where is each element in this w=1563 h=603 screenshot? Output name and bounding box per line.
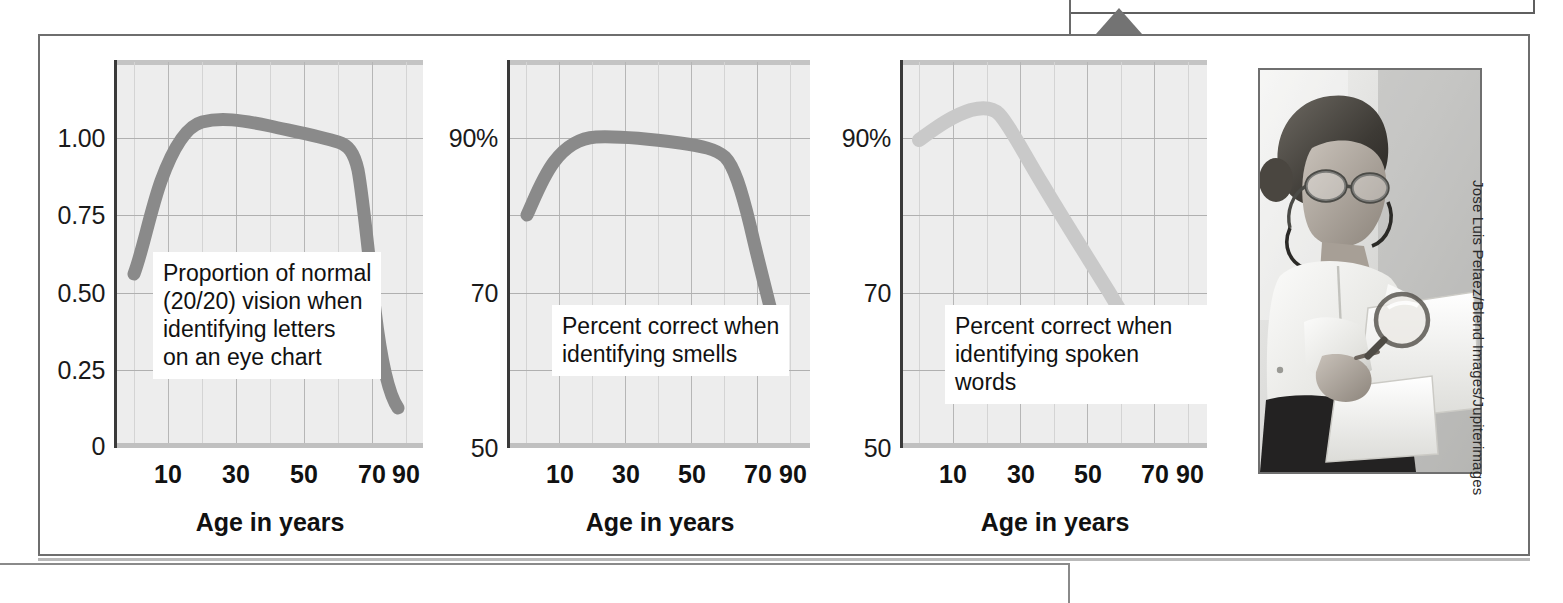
upper-box-left-rule [1069, 0, 1071, 36]
ytick-hearing-70: 70 [793, 279, 891, 308]
lower-frame-fragment [0, 563, 1070, 603]
callout-hearing: Percent correct when identifying spoken … [945, 305, 1207, 404]
callout-smell: Percent correct when identifying smells [552, 305, 789, 376]
xaxis-title-hearing: Age in years [903, 508, 1207, 537]
ytick-hearing-90: 90% [793, 124, 891, 153]
plot-area-smell: Percent correct when identifying smells [510, 60, 810, 448]
photo-older-woman-reading [1258, 68, 1482, 474]
plot-area-vision: Proportion of normal (20/20) vision when… [117, 60, 423, 448]
photo-credit: Jose Luis Pelaez/Blend Images/Jupiterima… [1470, 180, 1487, 495]
photo-illustration [1260, 70, 1480, 472]
pointer-triangle-icon [1096, 8, 1142, 34]
xtick-smell-50: 50 [662, 460, 722, 489]
xtick-vision-10: 10 [138, 460, 198, 489]
chart-smell: Percent correct when identifying smells … [510, 60, 810, 522]
ytick-vision-050: 0.50 [11, 279, 105, 308]
ytick-vision-075: 0.75 [11, 201, 105, 230]
figure-frame-shadow [38, 558, 1530, 561]
ytick-smell-70: 70 [400, 279, 498, 308]
xtick-smell-90: 90 [763, 460, 823, 489]
xtick-hearing-10: 10 [923, 460, 983, 489]
xtick-hearing-30: 30 [991, 460, 1051, 489]
plot-area-hearing: Percent correct when identifying spoken … [903, 60, 1207, 448]
xaxis-title-smell: Age in years [510, 508, 810, 537]
ytick-vision-100: 1.00 [11, 124, 105, 153]
ytick-smell-90: 90% [400, 124, 498, 153]
xtick-hearing-50: 50 [1058, 460, 1118, 489]
xtick-vision-30: 30 [206, 460, 266, 489]
xaxis-title-vision: Age in years [117, 508, 423, 537]
ytick-hearing-50: 50 [793, 434, 891, 463]
chart-hearing: Percent correct when identifying spoken … [903, 60, 1207, 522]
ytick-vision-025: 0.25 [11, 356, 105, 385]
chart-vision: Proportion of normal (20/20) vision when… [117, 60, 423, 522]
xtick-vision-50: 50 [274, 460, 334, 489]
xtick-hearing-90: 90 [1160, 460, 1220, 489]
xtick-vision-90: 90 [376, 460, 436, 489]
ytick-vision-0: 0 [11, 432, 105, 461]
xtick-smell-10: 10 [530, 460, 590, 489]
ytick-smell-50: 50 [400, 434, 498, 463]
callout-vision: Proportion of normal (20/20) vision when… [153, 252, 381, 379]
curve-smell [510, 60, 810, 448]
xtick-smell-30: 30 [596, 460, 656, 489]
